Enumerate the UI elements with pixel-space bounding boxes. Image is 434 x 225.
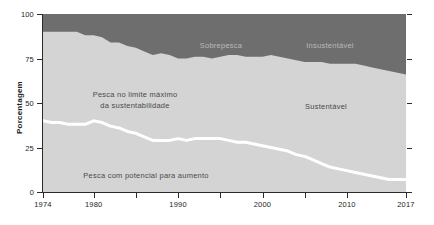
y-tick-mark-100: [37, 14, 42, 15]
x-axis-line: [42, 192, 407, 193]
y-tick-mark-right-0: [407, 192, 412, 193]
annotation-limite-maximo: Pesca no limite máximo da sustentabilida…: [75, 90, 195, 112]
x-tick-mark-2000: [263, 193, 264, 198]
x-tick-mark-2010: [347, 193, 348, 198]
annotation-limite-maximo-line2: da sustentabilidade: [75, 101, 195, 112]
y-axis-line: [42, 14, 43, 193]
x-tick-label-2017: 2017: [397, 200, 415, 209]
y-tick-mark-right-100: [407, 14, 412, 15]
y-tick-label-100: 100: [21, 10, 34, 19]
y-tick-mark-right-25: [407, 148, 412, 149]
annotation-sustentavel: Sustentável: [305, 102, 347, 111]
y-tick-mark-25: [37, 148, 42, 149]
x-minor-tick-mark-1985: [136, 193, 137, 198]
annotation-insustentavel: Insustentável: [306, 41, 353, 50]
y-tick-label-0: 0: [30, 188, 34, 197]
annotation-limite-maximo-line1: Pesca no limite máximo: [75, 90, 195, 101]
chart-root: Sobrepesca Insustentável Pesca no limite…: [0, 0, 434, 225]
y-tick-mark-right-50: [407, 103, 412, 104]
x-minor-tick-mark-1995: [220, 193, 221, 198]
plot-area: Sobrepesca Insustentável Pesca no limite…: [43, 14, 406, 192]
annotation-potencial-aumento: Pesca com potencial para aumento: [83, 171, 209, 180]
y-tick-label-75: 75: [25, 54, 34, 63]
x-minor-tick-mark-2005: [305, 193, 306, 198]
x-tick-mark-1980: [94, 193, 95, 198]
x-tick-mark-2017: [406, 193, 407, 198]
y-tick-label-25: 25: [25, 143, 34, 152]
x-tick-label-1980: 1980: [85, 200, 103, 209]
x-tick-mark-1974: [43, 193, 44, 198]
y-tick-mark-right-75: [407, 59, 412, 60]
y-tick-mark-75: [37, 59, 42, 60]
y-axis-title: Porcentagem: [15, 63, 24, 153]
x-tick-label-1990: 1990: [169, 200, 187, 209]
annotation-sobrepesca: Sobrepesca: [200, 41, 243, 50]
x-tick-mark-1990: [178, 193, 179, 198]
x-tick-label-1974: 1974: [34, 200, 52, 209]
y-tick-mark-0: [37, 192, 42, 193]
x-tick-label-2010: 2010: [338, 200, 356, 209]
y-tick-label-50: 50: [25, 99, 34, 108]
y-tick-mark-50: [37, 103, 42, 104]
x-tick-label-2000: 2000: [254, 200, 272, 209]
